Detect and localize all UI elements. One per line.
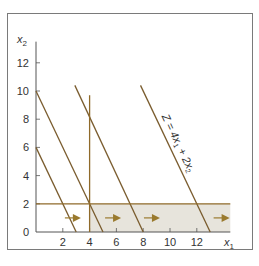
x-tick-label: 10 [164, 236, 176, 248]
y-tick-label: 12 [17, 57, 29, 69]
y-tick-label: 2 [23, 198, 29, 210]
y-tick-label: 6 [23, 141, 29, 153]
x-tick-label: 6 [113, 236, 119, 248]
arrow-head-icon [73, 214, 81, 222]
y-axis-label: x2 [16, 33, 28, 48]
x-tick-label: 12 [191, 236, 203, 248]
x-tick-label: 4 [87, 236, 93, 248]
y-tick-label: 8 [23, 113, 29, 125]
chart: 24681012024681012x1x2Z = 4x1 + 2x2 [0, 0, 259, 266]
series-line [36, 91, 103, 232]
series-line [36, 147, 76, 232]
x-tick-label: 2 [60, 236, 66, 248]
x-axis-label: x1 [223, 236, 235, 251]
y-tick-label: 0 [23, 226, 29, 238]
y-tick-label: 10 [17, 85, 29, 97]
y-tick-label: 4 [23, 170, 29, 182]
x-tick-label: 8 [140, 236, 146, 248]
